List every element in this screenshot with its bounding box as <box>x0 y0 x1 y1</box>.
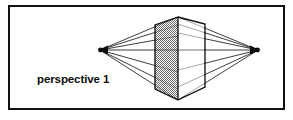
perspective-caption: perspective 1 <box>37 73 109 85</box>
perspective-diagram <box>0 0 293 120</box>
figure-container: perspective 1 <box>0 0 293 120</box>
right-vanishing-point-dot <box>255 48 260 53</box>
box-right-face-overlay <box>178 18 204 99</box>
left-vanishing-point-dot <box>98 48 103 53</box>
box-left-face-overlay <box>156 18 178 99</box>
